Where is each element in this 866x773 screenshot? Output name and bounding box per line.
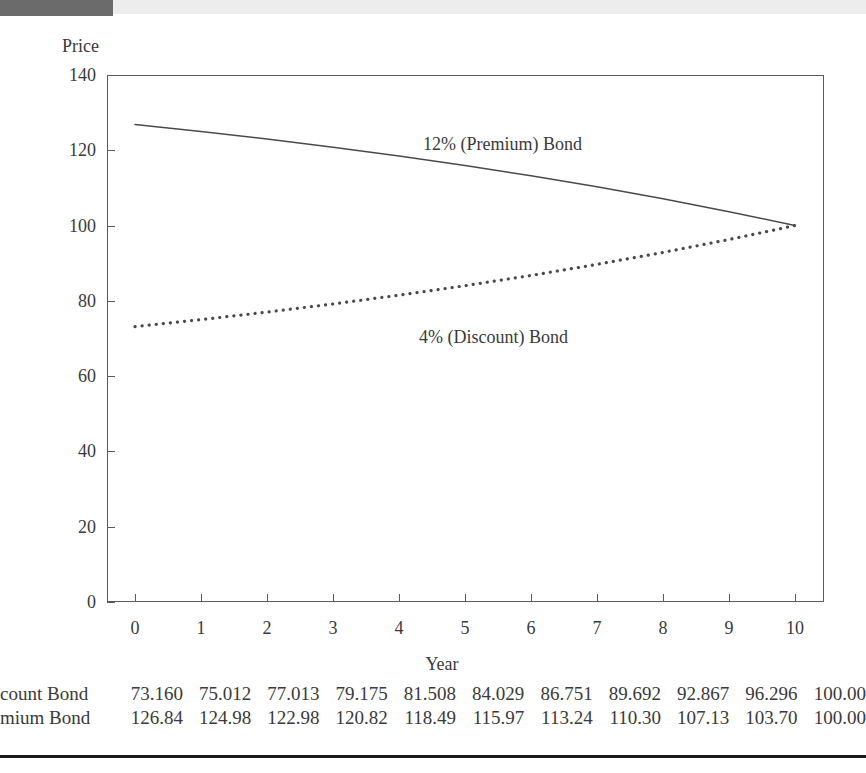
bond-price-table: count Bond73.16075.01277.01379.17581.508…	[0, 682, 866, 730]
scan-banner	[0, 0, 866, 16]
table-row: count Bond73.16075.01277.01379.17581.508…	[0, 682, 866, 706]
series-annotation-discount: 4% (Discount) Bond	[419, 327, 568, 347]
table-cell-value: 118.49	[388, 706, 456, 730]
bottom-rule	[0, 755, 866, 758]
table-cell-value: 92.867	[661, 682, 729, 706]
table-cell-value: 122.98	[251, 706, 319, 730]
scan-banner-dark-block	[0, 0, 113, 16]
series-line-discount	[135, 226, 795, 327]
bond-price-chart: Price 020406080100120140 012345678910 12…	[0, 16, 866, 757]
table-cell-value: 86.751	[524, 682, 592, 706]
table-cell-value: 73.160	[115, 682, 183, 706]
table-cell-value: 120.82	[319, 706, 387, 730]
table-cell-value: 77.013	[251, 682, 319, 706]
table-row-label: mium Bond	[0, 706, 115, 730]
table-row-label: count Bond	[0, 682, 115, 706]
table-cell-value: 110.30	[593, 706, 661, 730]
table-cell-value: 115.97	[456, 706, 524, 730]
series-annotation-premium: 12% (Premium) Bond	[423, 134, 582, 154]
table-cell-value: 107.13	[661, 706, 729, 730]
table-cell-value: 100.00	[798, 682, 866, 706]
table-cell-value: 89.692	[593, 682, 661, 706]
scan-banner-light-block	[113, 0, 866, 14]
table-cell-value: 79.175	[319, 682, 387, 706]
table-cell-value: 75.012	[183, 682, 251, 706]
table-cell-value: 126.84	[115, 706, 183, 730]
table-row: mium Bond126.84124.98122.98120.82118.491…	[0, 706, 866, 730]
table-cell-value: 124.98	[183, 706, 251, 730]
x-axis-title-text: Year	[425, 654, 458, 674]
x-axis-title: Year	[0, 654, 866, 674]
table-cell-value: 96.296	[729, 682, 797, 706]
table-cell-value: 103.70	[729, 706, 797, 730]
table-cell-value: 100.00	[798, 706, 866, 730]
table-cell-value: 113.24	[524, 706, 592, 730]
table-cell-value: 84.029	[456, 682, 524, 706]
series-curves	[0, 16, 866, 757]
table-cell-value: 81.508	[388, 682, 456, 706]
